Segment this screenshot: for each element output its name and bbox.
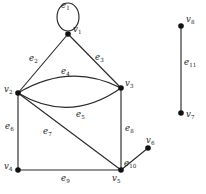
edge-e2 xyxy=(18,34,68,93)
vertex-v2 xyxy=(15,90,21,96)
vertex-v7 xyxy=(178,110,184,116)
edge-e4-curve xyxy=(18,76,121,93)
vertex-v6 xyxy=(145,145,151,151)
vertex-v5 xyxy=(118,167,124,173)
edge-e7 xyxy=(18,93,121,170)
vertex-v8 xyxy=(178,23,184,29)
graph-canvas xyxy=(0,0,206,194)
vertex-v3 xyxy=(118,85,124,91)
vertex-v4 xyxy=(15,167,21,173)
graph-figure: v1 v2 v3 v4 v5 v6 v7 v8 e1 e2 e3 e4 e5 e… xyxy=(0,0,206,194)
edge-e1-self-loop xyxy=(57,3,79,31)
edge-e10 xyxy=(121,148,148,170)
vertex-v1 xyxy=(65,31,71,37)
edge-e3 xyxy=(68,34,121,88)
